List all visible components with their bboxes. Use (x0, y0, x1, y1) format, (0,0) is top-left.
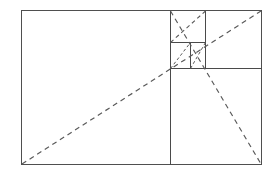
diagram-background (0, 0, 277, 172)
geometric-diagram-svg (0, 0, 277, 172)
diagram-canvas (0, 0, 277, 172)
